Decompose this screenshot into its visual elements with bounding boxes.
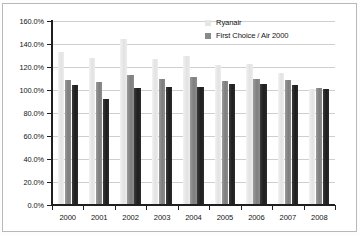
- y-axis-tick-label: 80.0%: [24, 109, 44, 118]
- bar-group: [215, 21, 235, 205]
- bar: [152, 59, 158, 205]
- plot-area: 0.0%20.0%40.0%60.0%80.0%100.0%120.0%140.…: [52, 21, 335, 205]
- y-tick-mark: [47, 182, 52, 183]
- legend-item-ryanair: Ryanair: [205, 17, 288, 28]
- legend-label: Ryanair: [216, 17, 241, 28]
- bar: [183, 56, 189, 206]
- bar: [246, 64, 252, 205]
- y-tick-mark: [47, 90, 52, 91]
- x-tick-mark: [241, 205, 242, 210]
- bar: [96, 82, 102, 205]
- bar: [134, 88, 140, 205]
- bar: [278, 73, 284, 205]
- x-tick-mark: [146, 205, 147, 210]
- chart-legend: Ryanair First Choice / Air 2000: [205, 17, 288, 43]
- y-axis-tick-label: 120.0%: [20, 63, 44, 72]
- y-axis-tick-label: 140.0%: [20, 40, 44, 49]
- y-tick-mark: [47, 159, 52, 160]
- bar: [215, 65, 221, 205]
- x-axis-tick-label: 2002: [122, 213, 139, 222]
- bar: [197, 87, 203, 205]
- bar: [89, 58, 95, 205]
- y-axis-tick-label: 0.0%: [28, 201, 44, 210]
- y-axis-tick-label: 40.0%: [24, 155, 44, 164]
- y-axis-tick-label: 20.0%: [24, 178, 44, 187]
- x-tick-mark: [209, 205, 210, 210]
- x-tick-mark: [52, 205, 53, 210]
- x-axis-tick-label: 2003: [154, 213, 171, 222]
- x-axis-tick-label: 2008: [311, 213, 328, 222]
- bar: [65, 80, 71, 205]
- legend-label: First Choice / Air 2000: [216, 30, 288, 41]
- bar: [58, 52, 64, 205]
- bar: [292, 85, 298, 205]
- x-tick-mark: [83, 205, 84, 210]
- bar: [72, 85, 78, 205]
- x-axis-line: [51, 204, 335, 206]
- bar: [222, 81, 228, 205]
- bar: [159, 79, 165, 206]
- bar: [120, 39, 126, 205]
- bar-group: [309, 21, 329, 205]
- x-axis-tick-label: 2006: [248, 213, 265, 222]
- bar: [190, 77, 196, 205]
- chart-container: 0.0%20.0%40.0%60.0%80.0%100.0%120.0%140.…: [0, 0, 360, 236]
- bar-group: [246, 21, 266, 205]
- x-axis-tick-label: 2007: [280, 213, 297, 222]
- x-axis-tick-label: 2005: [217, 213, 234, 222]
- y-tick-mark: [47, 136, 52, 137]
- y-axis-tick-label: 100.0%: [20, 86, 44, 95]
- x-tick-mark: [304, 205, 305, 210]
- bar: [229, 84, 235, 205]
- bar: [323, 89, 329, 205]
- y-tick-mark: [47, 44, 52, 45]
- bar-group: [152, 21, 172, 205]
- x-tick-mark: [115, 205, 116, 210]
- legend-swatch-icon: [205, 33, 211, 39]
- bar: [309, 89, 315, 205]
- y-axis-tick-label: 160.0%: [20, 17, 44, 26]
- bar: [166, 87, 172, 205]
- x-tick-mark: [335, 205, 336, 210]
- bar: [285, 80, 291, 205]
- y-tick-mark: [47, 67, 52, 68]
- x-axis-tick-label: 2001: [91, 213, 108, 222]
- bar-group: [58, 21, 78, 205]
- bar-group: [183, 21, 203, 205]
- x-tick-mark: [272, 205, 273, 210]
- bar-group: [89, 21, 109, 205]
- y-tick-mark: [47, 113, 52, 114]
- y-axis-tick-label: 60.0%: [24, 132, 44, 141]
- bar: [103, 99, 109, 205]
- bar: [260, 84, 266, 205]
- bar: [316, 88, 322, 205]
- legend-swatch-icon: [205, 20, 211, 26]
- x-axis-tick-label: 2004: [185, 213, 202, 222]
- bar: [127, 75, 133, 205]
- bar-group: [120, 21, 140, 205]
- legend-item-first-choice-air-2000: First Choice / Air 2000: [205, 30, 288, 41]
- bar-group: [278, 21, 298, 205]
- x-axis-tick-label: 2000: [59, 213, 76, 222]
- y-tick-mark: [47, 21, 52, 22]
- bar: [253, 79, 259, 206]
- x-tick-mark: [178, 205, 179, 210]
